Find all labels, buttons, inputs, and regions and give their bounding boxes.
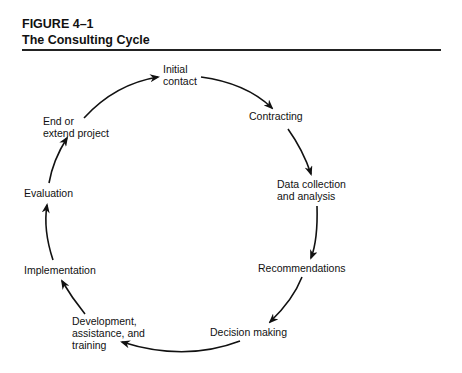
arrow-data-to-recommendations	[311, 206, 317, 258]
stage-contracting: Contracting	[249, 110, 303, 122]
arrow-end-to-contact	[84, 77, 158, 118]
stage-development: Development, assistance, and training	[72, 315, 145, 351]
stage-data-collection: Data collection and analysis	[277, 178, 346, 202]
arrow-evaluation-to-end	[49, 138, 67, 183]
stage-recommendations: Recommendations	[258, 262, 346, 274]
stage-end-extend: End or extend project	[43, 115, 109, 139]
stage-initial-contact: Initial contact	[163, 63, 197, 87]
arrow-implementation-to-evaluation	[46, 205, 53, 260]
arrow-development-to-implementation	[62, 281, 85, 314]
stage-implementation: Implementation	[24, 264, 96, 276]
stage-evaluation: Evaluation	[24, 187, 73, 199]
stage-decision-making: Decision making	[210, 326, 287, 338]
arrow-contracting-to-data	[288, 129, 311, 174]
arrow-contact-to-contracting	[201, 77, 272, 108]
arrow-recommendations-to-decision	[270, 277, 302, 322]
